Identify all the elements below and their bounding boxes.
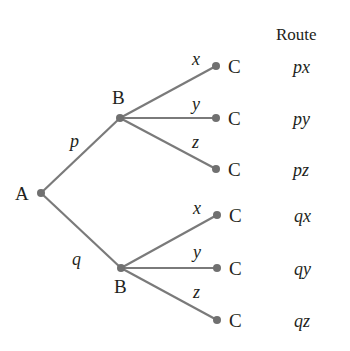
edge-label-x-lower: x	[192, 198, 201, 218]
edge-a-b-lower	[41, 193, 121, 268]
edge-a-b-upper	[41, 118, 120, 193]
node-a-dot	[37, 189, 45, 197]
edge-label-q: q	[72, 249, 81, 269]
route-py: py	[291, 109, 310, 129]
route-pz: pz	[291, 160, 309, 180]
leaf-dot-5	[213, 264, 221, 272]
route-qz: qz	[294, 311, 310, 331]
leaf-label-2: C	[228, 108, 241, 129]
node-b-lower-label: B	[114, 276, 127, 297]
leaf-dot-2	[212, 114, 220, 122]
leaf-label-3: C	[228, 159, 241, 180]
route-qy: qy	[294, 259, 311, 279]
edge-label-z-upper: z	[191, 132, 199, 152]
leaf-dot-6	[213, 316, 221, 324]
leaf-label-5: C	[229, 258, 242, 279]
node-b-upper-dot	[116, 114, 124, 122]
leaf-dot-1	[212, 62, 220, 70]
edge-b1-c3	[120, 118, 216, 169]
edge-b2-c6	[121, 268, 217, 320]
edge-b1-c1	[120, 66, 216, 118]
node-a-label: A	[15, 183, 29, 204]
route-px: px	[291, 57, 310, 77]
node-b-upper-label: B	[112, 87, 125, 108]
edge-label-y-upper: y	[190, 94, 200, 114]
tree-diagram: A B B p q x y z x y z C C C C C C Route …	[0, 0, 350, 351]
edge-label-z-lower: z	[192, 282, 200, 302]
leaf-label-6: C	[229, 310, 242, 331]
leaf-label-1: C	[228, 56, 241, 77]
edge-label-x-upper: x	[191, 49, 200, 69]
node-b-lower-dot	[117, 264, 125, 272]
leaf-dot-3	[212, 165, 220, 173]
leaf-dot-4	[213, 211, 221, 219]
edge-label-y-lower: y	[191, 242, 201, 262]
route-header: Route	[276, 25, 317, 44]
edge-label-p: p	[68, 131, 79, 151]
edge-b2-c4	[121, 215, 217, 268]
route-qx: qx	[294, 206, 311, 226]
leaf-label-4: C	[229, 205, 242, 226]
